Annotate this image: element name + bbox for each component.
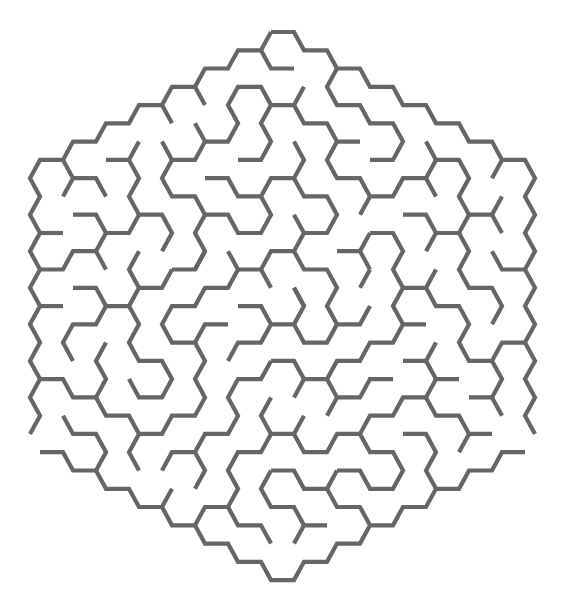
maze-background bbox=[0, 0, 567, 614]
maze-board bbox=[0, 0, 567, 614]
